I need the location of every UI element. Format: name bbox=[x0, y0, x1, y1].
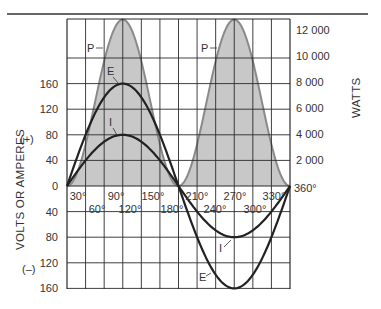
right-axis-title: WATTS bbox=[350, 78, 362, 118]
x-tick-label: 270° bbox=[224, 190, 247, 202]
x-tick-label: 180° bbox=[161, 203, 184, 215]
curve-label-e2: E bbox=[199, 271, 206, 283]
left-tick-label: 0 bbox=[52, 180, 58, 192]
curve-label-p2: P bbox=[201, 42, 208, 54]
x-tick-label: 360° bbox=[294, 182, 317, 194]
ac-power-chart: 16012080400408012016012 00010 0008 0006 … bbox=[0, 0, 381, 309]
left-tick-label: 80 bbox=[46, 231, 58, 243]
left-tick-label: 40 bbox=[46, 154, 58, 166]
right-tick-label: 2 000 bbox=[296, 154, 324, 166]
right-tick-label: 12 000 bbox=[296, 24, 330, 36]
x-tick-label: 150° bbox=[142, 190, 165, 202]
x-tick-label: 60° bbox=[89, 203, 106, 215]
right-tick-label: 4 000 bbox=[296, 128, 324, 140]
curve-label-e: E bbox=[107, 65, 114, 77]
x-tick-label: 30° bbox=[70, 190, 87, 202]
leader-line bbox=[224, 240, 231, 247]
curve-label-i: I bbox=[109, 116, 112, 128]
negative-sign-label: (–) bbox=[22, 263, 35, 275]
curve-label-i2: I bbox=[219, 242, 222, 254]
left-tick-label: 160 bbox=[40, 282, 58, 294]
left-tick-label: 120 bbox=[40, 103, 58, 115]
x-tick-label: 90° bbox=[108, 190, 125, 202]
right-tick-label: 8 000 bbox=[296, 76, 324, 88]
left-tick-label: 120 bbox=[40, 257, 58, 269]
curve-label-p: P bbox=[87, 42, 94, 54]
x-tick-label: 330° bbox=[263, 190, 286, 202]
left-tick-label: 160 bbox=[40, 78, 58, 90]
x-tick-label: 120° bbox=[119, 203, 142, 215]
x-tick-label: 210° bbox=[186, 190, 209, 202]
leader-line bbox=[206, 273, 211, 276]
left-axis-title: VOLTS OR AMPERES bbox=[14, 129, 26, 250]
right-tick-label: 10 000 bbox=[296, 50, 330, 62]
left-tick-label: 80 bbox=[46, 129, 58, 141]
left-tick-label: 40 bbox=[46, 206, 58, 218]
positive-sign-label: (+) bbox=[20, 133, 34, 145]
x-tick-label: 300° bbox=[244, 203, 267, 215]
x-tick-label: 240° bbox=[204, 203, 227, 215]
right-tick-label: 6 000 bbox=[296, 102, 324, 114]
